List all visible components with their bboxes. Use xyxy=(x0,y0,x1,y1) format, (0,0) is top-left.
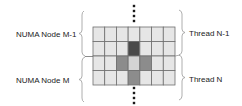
grid-cell-medium xyxy=(128,71,140,86)
grid-cell-light xyxy=(163,71,175,86)
grid-cell-light xyxy=(152,27,164,42)
grid-cell-light xyxy=(93,56,105,71)
grid-cell-light xyxy=(140,42,152,57)
thread-lower-brace xyxy=(179,55,185,100)
grid-cell-medium xyxy=(140,56,152,71)
numa-diagram: NUMA Node M-1 NUMA Node M Thread N-1 Thr… xyxy=(0,0,242,106)
grid-cell-light xyxy=(105,42,117,57)
thread-lower-label: Thread N xyxy=(189,75,223,84)
ellipsis-dot-below xyxy=(133,102,135,104)
grid-cell-pale xyxy=(128,56,140,71)
cell-grid xyxy=(93,27,175,85)
grid-cell-light xyxy=(163,42,175,57)
grid-cell-light xyxy=(128,27,140,42)
numa-node-upper-label: NUMA Node M-1 xyxy=(16,30,77,39)
thread-boundary-line xyxy=(175,55,180,56)
grid-cell-light xyxy=(140,71,152,86)
grid-cell-light xyxy=(116,27,128,42)
grid-cell-light xyxy=(152,42,164,57)
grid-cell-light xyxy=(140,27,152,42)
numa-lower-brace xyxy=(79,57,85,102)
grid-cell-light xyxy=(116,42,128,57)
ellipsis-dot-above xyxy=(133,5,135,7)
numa-node-lower-label: NUMA Node M xyxy=(16,76,70,85)
ellipsis-dot-above xyxy=(133,15,135,17)
thread-upper-brace xyxy=(179,10,185,55)
grid-cell-dark xyxy=(128,42,140,57)
grid-cell-light xyxy=(152,71,164,86)
grid-cell-light xyxy=(105,71,117,86)
grid-cell-medium xyxy=(116,56,128,71)
grid-cell-light xyxy=(152,56,164,71)
ellipsis-dot-below xyxy=(133,92,135,94)
ellipsis-dot-above xyxy=(133,20,135,22)
numa-upper-brace xyxy=(79,11,85,56)
ellipsis-dot-below xyxy=(133,87,135,89)
grid-cell-light xyxy=(163,27,175,42)
grid-cell-light xyxy=(105,27,117,42)
thread-upper-label: Thread N-1 xyxy=(189,29,230,38)
grid-cell-light xyxy=(116,71,128,86)
ellipsis-dot-above xyxy=(133,10,135,12)
ellipsis-dot-below xyxy=(133,97,135,99)
grid-cell-light xyxy=(93,27,105,42)
grid-cell-light xyxy=(93,71,105,86)
grid-cell-light xyxy=(105,56,117,71)
grid-cell-light xyxy=(93,42,105,57)
grid-cell-light xyxy=(163,56,175,71)
